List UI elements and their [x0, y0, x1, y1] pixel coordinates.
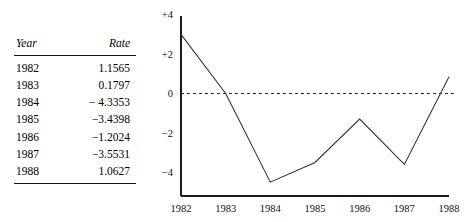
table-row: 1984− 4.3353 — [14, 94, 136, 111]
cell-year: 1984 — [14, 94, 56, 111]
y-axis-tick-labels: +4+20−2−4 — [162, 9, 174, 178]
y-tick-label: −2 — [162, 128, 173, 139]
x-tick-label: 1985 — [305, 203, 326, 214]
cell-rate: − 4.3353 — [56, 94, 136, 111]
cell-year: 1988 — [14, 163, 56, 183]
table-header-row: Year Rate — [14, 38, 136, 55]
cell-year: 1983 — [14, 77, 56, 94]
cell-year: 1987 — [14, 146, 56, 163]
x-tick-label: 1984 — [260, 203, 282, 214]
table-row: 1985−3.4398 — [14, 111, 136, 128]
table-row: 19830.1797 — [14, 77, 136, 94]
rate-table-container: Year Rate 19821.156519830.17971984− 4.33… — [14, 38, 136, 184]
table-row: 19881.0627 — [14, 163, 136, 183]
column-header-year: Year — [14, 38, 56, 55]
cell-year: 1985 — [14, 111, 56, 128]
table-row: 19821.1565 — [14, 55, 136, 77]
column-header-rate: Rate — [56, 38, 136, 55]
y-tick-label: −4 — [162, 167, 174, 178]
x-axis-tick-labels: 1982198319841985198619871988 — [171, 203, 460, 214]
cell-rate: 1.0627 — [56, 163, 136, 183]
line-chart-svg: +4+20−2−4 1982198319841985198619871988 — [140, 0, 466, 222]
cell-rate: 0.1797 — [56, 77, 136, 94]
cell-year: 1982 — [14, 55, 56, 77]
x-tick-label: 1987 — [394, 203, 415, 214]
x-tick-label: 1986 — [349, 203, 370, 214]
cell-rate: −3.4398 — [56, 111, 136, 128]
cell-rate: −1.2024 — [56, 129, 136, 146]
rate-table: Year Rate 19821.156519830.17971984− 4.33… — [14, 38, 136, 184]
cell-year: 1986 — [14, 129, 56, 146]
y-tick-label: +4 — [162, 9, 174, 20]
table-body: 19821.156519830.17971984− 4.33531985−3.4… — [14, 55, 136, 183]
x-tick-label: 1988 — [439, 203, 460, 214]
table-row: 1986−1.2024 — [14, 129, 136, 146]
x-tick-label: 1983 — [215, 203, 236, 214]
cell-rate: 1.1565 — [56, 55, 136, 77]
y-tick-label: 0 — [168, 88, 173, 99]
cell-rate: −3.5531 — [56, 146, 136, 163]
x-tick-label: 1982 — [171, 203, 192, 214]
table-head: Year Rate — [14, 38, 136, 55]
y-tick-label: +2 — [162, 49, 173, 60]
table-row: 1987−3.5531 — [14, 146, 136, 163]
data-series-rate-line — [181, 34, 449, 182]
line-chart-container: +4+20−2−4 1982198319841985198619871988 — [140, 0, 466, 222]
figure-root: Year Rate 19821.156519830.17971984− 4.33… — [0, 0, 466, 222]
